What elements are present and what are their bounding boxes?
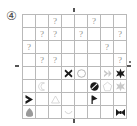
grid-cell-empty-r4c4[interactable] — [62, 54, 75, 67]
grid-cell-empty-r5c2[interactable] — [36, 67, 49, 80]
grid-cell-empty-r3c3[interactable] — [49, 41, 62, 54]
question-mark: ? — [36, 54, 48, 66]
puzzle-root: ④ ??????????? — [0, 0, 137, 126]
grid-cell-shape-r7c1[interactable] — [23, 93, 36, 106]
pentagon-icon — [102, 81, 113, 92]
grid-cell-question-r4c2[interactable]: ? — [36, 54, 49, 67]
triangle-outline-icon — [50, 94, 61, 105]
flag-icon — [89, 94, 100, 105]
grid-cell-question-r2c2[interactable]: ? — [36, 28, 49, 41]
grid-cell-empty-r7c7[interactable] — [101, 93, 114, 106]
grid-cell-empty-r8c5[interactable] — [75, 106, 88, 119]
bowtie-icon — [115, 107, 126, 118]
grid-cell-shape-r6c8[interactable] — [114, 80, 127, 93]
grid-cell-empty-r8c6[interactable] — [88, 106, 101, 119]
grid-cell-shape-r6c6[interactable] — [88, 80, 101, 93]
grid-cell-question-r3c7[interactable]: ? — [101, 41, 114, 54]
grid-cell-shape-r8c1[interactable] — [23, 106, 36, 119]
grid-cell-empty-r5c6[interactable] — [88, 67, 101, 80]
crescent-icon — [37, 81, 48, 92]
question-mark: ? — [114, 28, 126, 40]
cross-x-icon — [63, 68, 74, 79]
grid-cell-empty-r6c3[interactable] — [49, 80, 62, 93]
grid-cell-shape-r8c8[interactable] — [114, 106, 127, 119]
grid-cell-empty-r6c4[interactable] — [62, 80, 75, 93]
grid-cell-empty-r2c1[interactable] — [23, 28, 36, 41]
tick-right — [127, 65, 131, 67]
grid-cell-shape-r6c7[interactable] — [101, 80, 114, 93]
grid-cell-question-r2c8[interactable]: ? — [114, 28, 127, 41]
grid-cell-question-r1c3[interactable]: ? — [49, 15, 62, 28]
grid-cell-empty-r2c7[interactable] — [101, 28, 114, 41]
grid-cell-empty-r1c2[interactable] — [36, 15, 49, 28]
grid-cell-shape-r8c4[interactable] — [62, 106, 75, 119]
grid-cell-empty-r3c4[interactable] — [62, 41, 75, 54]
grid-cell-question-r3c1[interactable]: ? — [23, 41, 36, 54]
question-mark: ? — [114, 54, 126, 66]
grid-cell-empty-r8c2[interactable] — [36, 106, 49, 119]
grid-cell-question-r2c3[interactable]: ? — [49, 28, 62, 41]
question-mark: ? — [88, 15, 100, 27]
question-mark: ? — [49, 54, 61, 66]
grid-cell-empty-r4c7[interactable] — [101, 54, 114, 67]
grid-cell-empty-r5c1[interactable] — [23, 67, 36, 80]
grid-cell-empty-r1c1[interactable] — [23, 15, 36, 28]
grid-cell-shape-r6c2[interactable] — [36, 80, 49, 93]
grid-cell-empty-r3c8[interactable] — [114, 41, 127, 54]
arc-smile-icon — [63, 107, 74, 118]
grid-cell-question-r1c6[interactable]: ? — [88, 15, 101, 28]
question-mark: ? — [49, 28, 61, 40]
grid-cell-empty-r1c8[interactable] — [114, 15, 127, 28]
arrow-right-icon — [102, 68, 113, 79]
question-mark: ? — [75, 28, 87, 40]
grid-cell-empty-r1c4[interactable] — [62, 15, 75, 28]
blob-icon — [24, 107, 35, 118]
grid-cell-question-r4c3[interactable]: ? — [49, 54, 62, 67]
grid-cell-empty-r3c2[interactable] — [36, 41, 49, 54]
problem-number-label: ④ — [4, 9, 19, 24]
tick-left — [15, 65, 19, 67]
grid-cell-shape-r7c6[interactable] — [88, 93, 101, 106]
no-entry-icon — [89, 81, 100, 92]
tick-top — [73, 8, 75, 12]
grid-cell-shape-r5c4[interactable] — [62, 67, 75, 80]
grid-cell-empty-r2c6[interactable] — [88, 28, 101, 41]
tick-corner-dot — [129, 61, 131, 63]
grid-cell-empty-r3c5[interactable] — [75, 41, 88, 54]
shape-grid[interactable]: ??????????? — [22, 14, 127, 119]
star-6-icon — [115, 68, 126, 79]
grid-cell-empty-r4c6[interactable] — [88, 54, 101, 67]
grid-cell-empty-r2c4[interactable] — [62, 28, 75, 41]
grid-cell-empty-r1c7[interactable] — [101, 15, 114, 28]
grid-cell-empty-r7c5[interactable] — [75, 93, 88, 106]
grid-cell-empty-r7c4[interactable] — [62, 93, 75, 106]
tick-bottom — [73, 119, 75, 123]
grid-cell-shape-r5c7[interactable] — [101, 67, 114, 80]
grid-cell-empty-r7c8[interactable] — [114, 93, 127, 106]
grid-cell-shape-r5c8[interactable] — [114, 67, 127, 80]
question-mark: ? — [101, 41, 113, 53]
grid-cell-question-r2c5[interactable]: ? — [75, 28, 88, 41]
grid-cell-shape-r7c3[interactable] — [49, 93, 62, 106]
grid-cell-empty-r6c1[interactable] — [23, 80, 36, 93]
grid-cell-empty-r8c7[interactable] — [101, 106, 114, 119]
grid-cell-empty-r4c1[interactable] — [23, 54, 36, 67]
question-mark: ? — [36, 28, 48, 40]
grid-cell-empty-r1c5[interactable] — [75, 15, 88, 28]
grid-cell-question-r4c8[interactable]: ? — [114, 54, 127, 67]
question-mark: ? — [49, 15, 61, 27]
grid-cell-empty-r3c6[interactable] — [88, 41, 101, 54]
grid-cell-empty-r4c5[interactable] — [75, 54, 88, 67]
ellipse-outline-icon — [76, 68, 87, 79]
grid-cell-empty-r7c2[interactable] — [36, 93, 49, 106]
star-6-icon — [115, 81, 126, 92]
question-mark: ? — [23, 41, 35, 53]
grid-cell-empty-r5c3[interactable] — [49, 67, 62, 80]
grid-cell-empty-r6c5[interactable] — [75, 80, 88, 93]
grid-cell-shape-r5c5[interactable] — [75, 67, 88, 80]
grid-cell-empty-r8c3[interactable] — [49, 106, 62, 119]
chevron-right-icon — [24, 94, 35, 105]
